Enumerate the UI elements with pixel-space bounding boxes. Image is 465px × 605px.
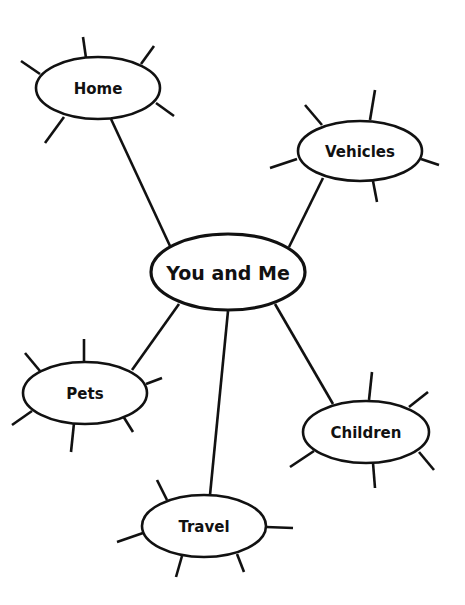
spoke-travel bbox=[176, 556, 182, 577]
spoke-pets bbox=[25, 353, 40, 371]
connector-home bbox=[111, 119, 170, 246]
node-label: Children bbox=[331, 424, 402, 442]
node-label: Pets bbox=[66, 385, 103, 403]
connector-travel bbox=[210, 311, 228, 495]
center-node-center: You and Me bbox=[151, 234, 305, 310]
node-vehicles: Vehicles bbox=[298, 121, 422, 181]
spoke-travel bbox=[157, 480, 167, 500]
spoke-pets bbox=[123, 416, 133, 432]
spoke-pets bbox=[71, 423, 74, 452]
connector-children bbox=[275, 304, 333, 404]
spoke-vehicles bbox=[270, 159, 297, 168]
spoke-vehicles bbox=[421, 159, 439, 165]
spoke-children bbox=[373, 463, 375, 488]
spoke-home bbox=[156, 103, 174, 116]
connector-pets bbox=[132, 304, 179, 370]
spoke-travel bbox=[237, 554, 244, 572]
node-label: You and Me bbox=[165, 262, 290, 284]
node-children: Children bbox=[303, 401, 429, 463]
spoke-home bbox=[45, 117, 64, 143]
concept-nodes: HomeVehiclesPetsChildrenTravelYou and Me bbox=[23, 57, 429, 557]
concept-web-diagram: HomeVehiclesPetsChildrenTravelYou and Me bbox=[0, 0, 465, 605]
node-label: Vehicles bbox=[325, 143, 395, 161]
spoke-vehicles bbox=[373, 181, 377, 202]
spoke-home bbox=[83, 37, 86, 58]
spoke-children bbox=[419, 452, 434, 470]
spoke-vehicles bbox=[305, 105, 322, 125]
connector-vehicles bbox=[289, 178, 323, 247]
node-label: Travel bbox=[178, 518, 229, 536]
spoke-vehicles bbox=[370, 90, 375, 120]
node-label: Home bbox=[74, 80, 123, 98]
spoke-children bbox=[409, 392, 428, 407]
node-home: Home bbox=[36, 57, 160, 119]
spoke-children bbox=[290, 451, 314, 467]
spoke-pets bbox=[12, 411, 32, 425]
spoke-travel bbox=[117, 533, 143, 542]
spoke-travel bbox=[266, 527, 293, 528]
spoke-home bbox=[21, 61, 40, 74]
spoke-pets bbox=[146, 378, 162, 384]
spoke-home bbox=[141, 46, 154, 64]
spoke-children bbox=[369, 372, 372, 400]
node-travel: Travel bbox=[142, 495, 266, 557]
node-pets: Pets bbox=[23, 362, 147, 424]
